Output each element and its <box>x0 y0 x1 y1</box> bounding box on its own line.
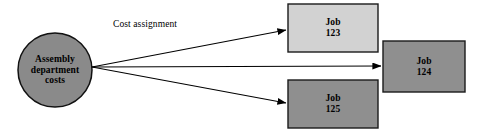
arrow-to-job-125 <box>92 67 286 103</box>
job-123-box <box>288 4 378 52</box>
job-124-box <box>383 41 465 92</box>
cost-assignment-edge-label: Cost assignment <box>113 19 177 29</box>
job-125-box <box>288 80 378 128</box>
arrow-to-job-124 <box>92 66 381 67</box>
cost-assignment-diagram: Assembly department costs Job 123 Job 12… <box>0 0 480 135</box>
assembly-department-costs-circle <box>18 33 92 107</box>
diagram-canvas <box>0 0 480 135</box>
arrow-to-job-123 <box>92 30 286 67</box>
